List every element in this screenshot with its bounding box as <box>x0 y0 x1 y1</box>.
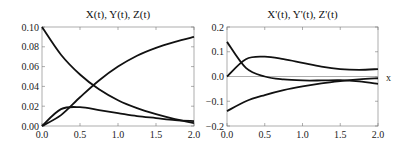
series-line <box>227 78 378 111</box>
y-tick-label: −0.1 <box>206 96 224 107</box>
y-tick-label: 0.2 <box>212 22 225 33</box>
y-tick-label: 0.04 <box>22 81 40 92</box>
x-tick-label: 1.0 <box>296 129 309 140</box>
y-tick-label: 0.00 <box>22 121 40 132</box>
x-tick-label: 0.5 <box>74 129 87 140</box>
x-tick-label: 2.0 <box>188 129 201 140</box>
y-tick-label: 0.10 <box>22 22 40 33</box>
y-tick-label: 0.06 <box>22 61 40 72</box>
x-axis-label: x <box>386 72 391 83</box>
y-tick-label: 0.02 <box>22 101 40 112</box>
y-tick-label: 0.0 <box>212 71 225 82</box>
x-tick-label: 1.0 <box>112 129 125 140</box>
x-tick-label: 0.5 <box>259 129 272 140</box>
series-line <box>227 57 378 77</box>
x-tick-label: 1.5 <box>334 129 347 140</box>
plot-xyz: X(t), Y(t), Z(t)0.00.51.01.52.00.000.020… <box>22 8 201 140</box>
y-tick-label: 0.08 <box>22 41 40 52</box>
chart-title: X(t), Y(t), Z(t) <box>86 8 151 21</box>
y-tick-label: 0.1 <box>212 46 225 57</box>
charts: X(t), Y(t), Z(t)0.00.51.01.52.00.000.020… <box>0 0 405 145</box>
chart-title: X'(t), Y'(t), Z'(t) <box>267 8 338 21</box>
y-tick-label: −0.2 <box>206 121 224 132</box>
x-tick-label: 1.5 <box>150 129 163 140</box>
plot-derivatives: X'(t), Y'(t), Z'(t)0.00.51.01.52.0−0.2−0… <box>206 8 391 140</box>
x-tick-label: 2.0 <box>372 129 385 140</box>
